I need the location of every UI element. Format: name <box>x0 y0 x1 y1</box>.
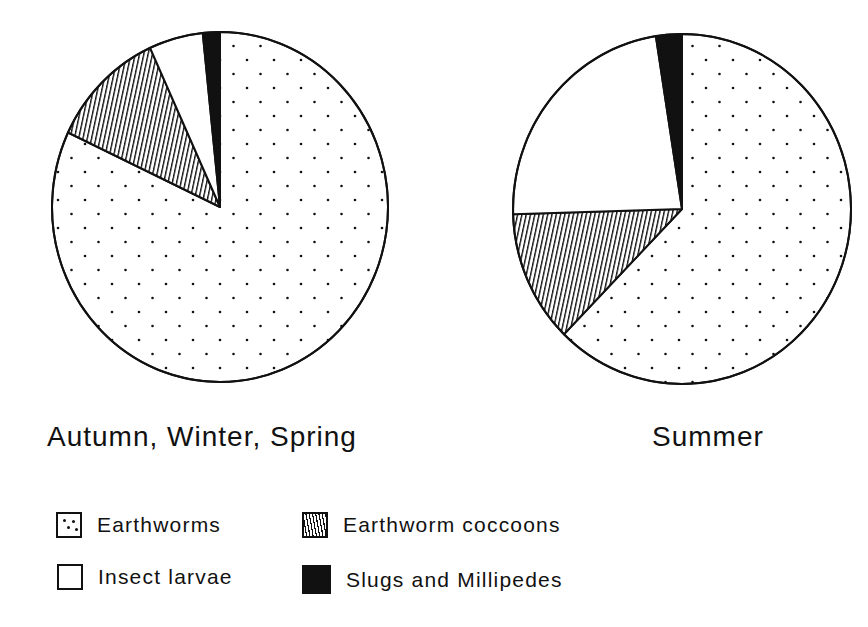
pie-summer <box>513 34 851 384</box>
pie-title-autumn-winter-spring: Autumn, Winter, Spring <box>47 421 357 453</box>
legend-label: Slugs and Millipedes <box>346 568 563 592</box>
legend-item-insect-larvae: Insect larvae <box>57 564 233 590</box>
dots-pattern-swatch-icon <box>56 512 82 538</box>
legend-label: Earthworm coccoons <box>343 513 561 537</box>
blank-swatch-icon <box>57 564 83 590</box>
legend-item-slugs-and-millipedes: Slugs and Millipedes <box>302 565 563 594</box>
legend-item-earthworms: Earthworms <box>56 512 221 538</box>
legend-label: Insect larvae <box>98 565 233 589</box>
legend-item-earthworm-coccoons: Earthworm coccoons <box>302 512 561 538</box>
solid-swatch-icon <box>302 565 331 594</box>
slice-insect-larvae <box>513 36 682 214</box>
pie-autumn-winter-spring <box>52 32 388 382</box>
pie-title-summer: Summer <box>652 421 764 453</box>
hatch-pattern-swatch-icon <box>302 512 328 538</box>
legend-label: Earthworms <box>97 513 221 537</box>
